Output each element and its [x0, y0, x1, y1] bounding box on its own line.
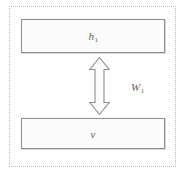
- block-visible-layer-label: v: [22, 128, 164, 139]
- block-visible-layer: v: [21, 118, 165, 149]
- weight-connector: [87, 56, 112, 116]
- double-headed-vertical-arrow-icon: [87, 56, 112, 116]
- weight-label-text: W: [131, 81, 140, 93]
- block-hidden-layer: h1: [21, 19, 165, 53]
- block-hidden-layer-label-text: h: [89, 30, 95, 42]
- block-visible-layer-label-text: v: [91, 127, 96, 139]
- weight-label: W1: [131, 82, 144, 93]
- block-hidden-layer-label: h1: [22, 31, 164, 42]
- block-hidden-layer-label-subscript: 1: [95, 36, 99, 44]
- figure-root: h1 W1 v: [0, 0, 184, 174]
- weight-label-subscript: 1: [141, 87, 145, 95]
